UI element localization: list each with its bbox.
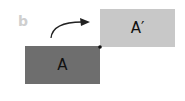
arrow-head-icon (80, 18, 90, 26)
diagram-overlay (0, 0, 185, 101)
pivot-point (98, 45, 102, 49)
curved-arrow-icon (51, 22, 82, 38)
